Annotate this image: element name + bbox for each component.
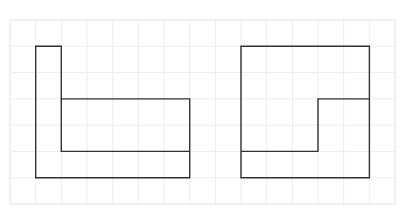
- figures: [36, 46, 370, 177]
- right-figure-outline: [241, 46, 369, 177]
- grid-diagram: [0, 0, 401, 210]
- grid-lines: [10, 20, 395, 204]
- right-figure: [241, 46, 369, 177]
